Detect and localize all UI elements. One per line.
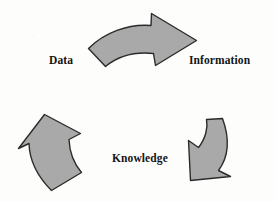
arrow-knowledge-to-data (19, 115, 82, 191)
arrow-data-to-information (89, 14, 197, 67)
arrow-information-to-knowledge (189, 119, 231, 181)
label-information: Information (189, 55, 250, 67)
cycle-arrows (0, 0, 276, 202)
label-knowledge: Knowledge (112, 153, 168, 165)
label-data: Data (49, 55, 73, 67)
diagram-canvas: Data Information Knowledge (0, 0, 276, 202)
